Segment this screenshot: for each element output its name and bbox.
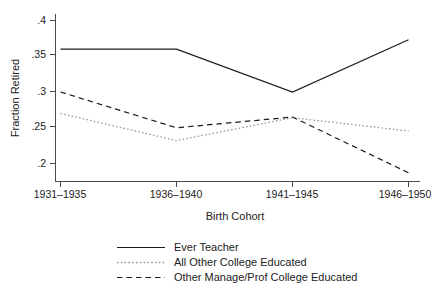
legend-label-2: Other Manage/Prof College Educated [174,271,357,283]
y-tick-label-1: .35 [31,48,46,60]
y-axis-tick-labels: .4 .35 .3 .25 .2 [31,14,46,169]
legend-label-1: All Other College Educated [174,256,307,268]
y-tick-label-2: .3 [37,85,46,97]
x-axis-title: Birth Cohort [206,210,265,222]
x-axis-ticks [61,182,409,188]
y-tick-label-4: .2 [37,157,46,169]
y-axis-ticks [50,21,56,164]
series-group [61,40,409,173]
y-tick-label-3: .25 [31,120,46,132]
chart-legend: Ever Teacher All Other College Educated … [117,241,357,283]
line-chart-canvas: .4 .35 .3 .25 .2 Fraction Retired 1931–1… [0,0,441,296]
x-tick-label-3: 1946–1950 [379,188,432,200]
y-axis-title: Fraction Retired [9,59,21,137]
chart-figure: .4 .35 .3 .25 .2 Fraction Retired 1931–1… [0,0,441,296]
y-tick-label-0: .4 [37,14,46,26]
series-line-all-other-college-educated [61,113,409,140]
x-tick-label-1: 1936–1940 [150,188,203,200]
x-axis-tick-labels: 1931–1935 1936–1940 1941–1945 1946–1950 [34,188,432,200]
axis-lines [56,14,421,182]
x-tick-label-0: 1931–1935 [34,188,87,200]
x-tick-label-2: 1941–1945 [266,188,319,200]
legend-label-0: Ever Teacher [174,241,239,253]
series-line-ever-teacher [61,40,409,92]
series-line-other-manage-prof-college-educated [61,92,409,173]
